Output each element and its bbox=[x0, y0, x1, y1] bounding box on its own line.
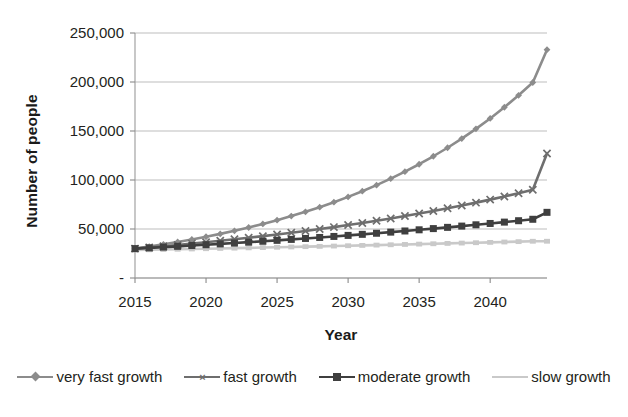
x-tick-label-4: 2035 bbox=[384, 294, 454, 309]
legend-item-slow-growth[interactable]: slow growth bbox=[492, 368, 610, 385]
legend-item-very-fast-growth[interactable]: very fast growth bbox=[17, 368, 162, 385]
legend-swatch-icon: × bbox=[184, 370, 220, 384]
x-tick-label-0: 2015 bbox=[100, 294, 170, 309]
x-tick-label-1: 2020 bbox=[171, 294, 241, 309]
legend-swatch-icon bbox=[319, 370, 355, 384]
legend-marker-x-icon: × bbox=[197, 372, 207, 382]
legend-swatch-icon bbox=[492, 370, 528, 384]
x-axis-title: Year bbox=[135, 326, 547, 344]
legend-marker-diamond-icon bbox=[31, 372, 41, 382]
legend-label: slow growth bbox=[531, 368, 610, 385]
legend-item-fast-growth[interactable]: ×fast growth bbox=[184, 368, 296, 385]
x-tick-label-5: 2040 bbox=[455, 294, 525, 309]
growth-projection-chart: Number of people -50,000100,000150,00020… bbox=[0, 0, 628, 417]
x-axis-tick-labels: 201520202025203020352040 bbox=[0, 0, 628, 417]
legend-label: very fast growth bbox=[56, 368, 162, 385]
legend-label: fast growth bbox=[223, 368, 296, 385]
legend-label: moderate growth bbox=[358, 368, 471, 385]
x-tick-label-3: 2030 bbox=[313, 294, 383, 309]
legend-marker-square-icon bbox=[333, 373, 341, 381]
chart-legend: very fast growth×fast growthmoderate gro… bbox=[0, 368, 628, 385]
legend-swatch-icon bbox=[17, 370, 53, 384]
x-tick-label-2: 2025 bbox=[242, 294, 312, 309]
legend-item-moderate-growth[interactable]: moderate growth bbox=[319, 368, 471, 385]
